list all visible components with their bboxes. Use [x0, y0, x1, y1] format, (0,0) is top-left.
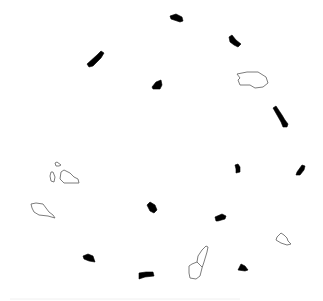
fragment-diagram [0, 0, 323, 301]
fragment-mid-right-1 [235, 164, 240, 173]
background [0, 0, 323, 301]
